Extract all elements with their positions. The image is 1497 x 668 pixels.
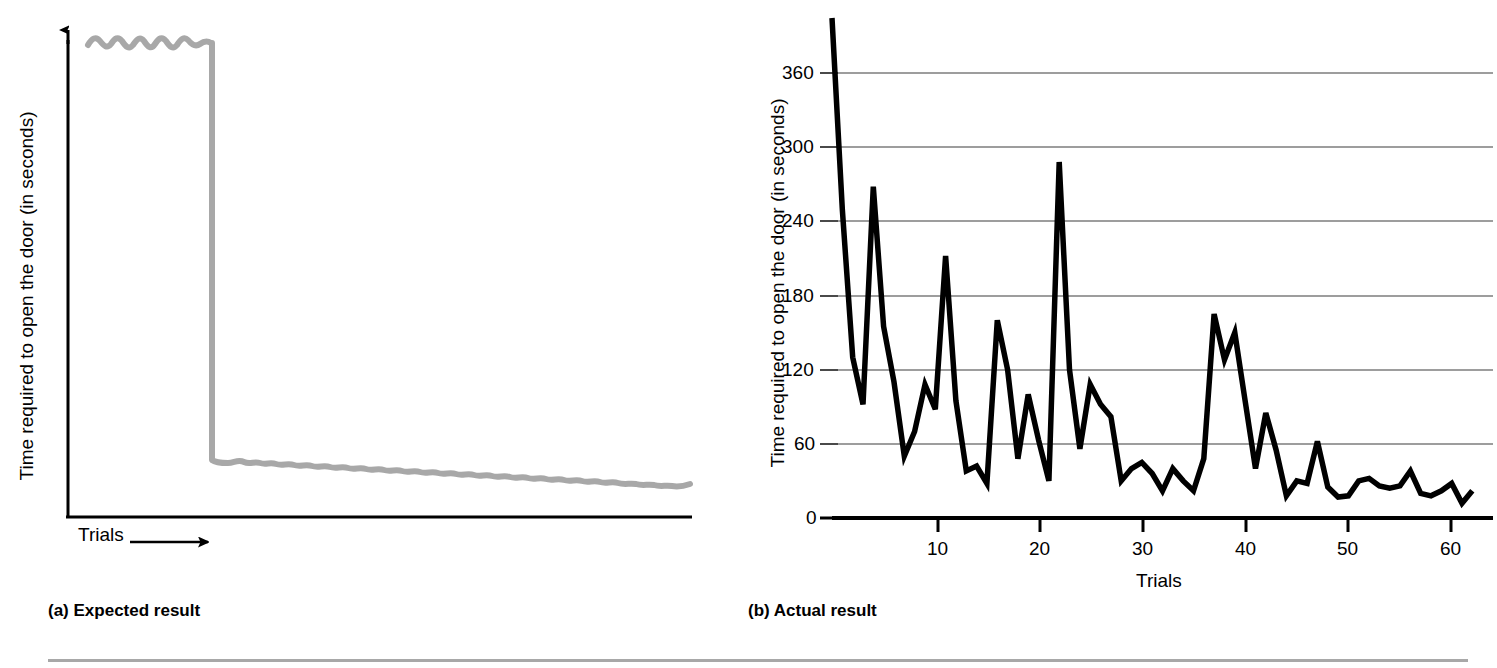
panel-caption-b: (b) Actual result — [748, 601, 877, 621]
expected-curve — [88, 38, 690, 486]
panel-actual-result: Time required to open the door (in secon… — [748, 0, 1497, 668]
x-tick-10: 10 — [927, 538, 948, 560]
y-tick-120: 120 — [782, 359, 814, 381]
y-tick-0: 0 — [806, 507, 817, 529]
y-axis-label: Time required to open the door (in secon… — [16, 86, 38, 506]
figure-container: Time required to open the door (in secon… — [0, 0, 1497, 668]
panel-expected-result: Time required to open the door (in secon… — [0, 0, 748, 668]
y-tick-300: 300 — [782, 136, 814, 158]
x-tick-20: 20 — [1029, 538, 1050, 560]
x-tick-50: 50 — [1337, 538, 1358, 560]
x-axis-label: Trials — [1136, 570, 1182, 592]
x-axis-label: Trials — [78, 524, 124, 546]
actual-result-series — [832, 18, 1472, 503]
x-axis-ticks — [938, 518, 1451, 532]
y-tick-360: 360 — [782, 62, 814, 84]
y-tick-240: 240 — [782, 210, 814, 232]
x-tick-60: 60 — [1440, 538, 1461, 560]
gridlines — [832, 73, 1493, 444]
figure-bottom-rule — [48, 659, 1468, 662]
panel-caption-a: (a) Expected result — [48, 601, 200, 621]
y-tick-180: 180 — [782, 285, 814, 307]
y-tick-60: 60 — [794, 433, 815, 455]
x-tick-30: 30 — [1132, 538, 1153, 560]
y-axis-ticks — [820, 73, 838, 518]
expected-result-plot — [0, 0, 748, 600]
x-tick-40: 40 — [1235, 538, 1256, 560]
actual-result-plot — [748, 0, 1497, 600]
